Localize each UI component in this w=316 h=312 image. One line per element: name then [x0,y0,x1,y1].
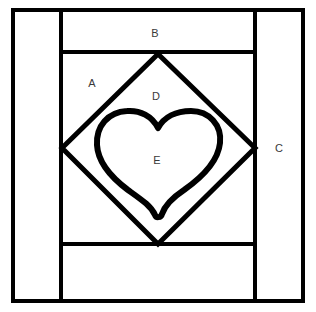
region-label-c: C [275,143,283,154]
region-label-d: D [152,91,160,102]
quilt-block-figure: A B C D E [0,0,316,312]
region-label-b: B [151,28,158,39]
region-label-a: A [88,78,95,89]
region-label-e: E [153,155,160,166]
